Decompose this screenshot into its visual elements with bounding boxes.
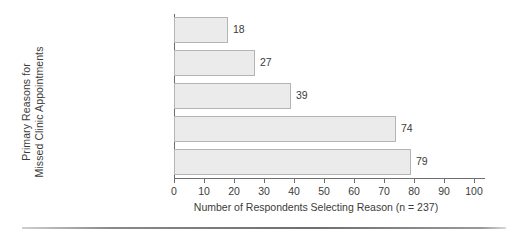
x-axis-tick	[384, 178, 385, 183]
x-axis-tick	[354, 178, 355, 183]
bar-series: Dissatisfied With Previous Care 18 Care …	[174, 14, 485, 178]
bar	[174, 17, 228, 43]
plot-area: Dissatisfied With Previous Care 18 Care …	[174, 14, 485, 179]
x-axis-tick	[234, 178, 235, 183]
x-axis-tick-label: 10	[189, 185, 219, 197]
bar-value-label: 74	[401, 122, 413, 134]
x-axis-tick	[204, 178, 205, 183]
x-axis-title: Number of Respondents Selecting Reason (…	[0, 201, 528, 213]
y-axis-title-line-1: Primary Reasons for	[20, 63, 33, 161]
x-axis-tick-label: 30	[249, 185, 279, 197]
x-axis-tick-label: 100	[459, 185, 489, 197]
x-axis-tick	[174, 178, 175, 183]
bar-value-label: 79	[416, 155, 428, 167]
bar	[174, 50, 255, 76]
bar	[174, 83, 291, 109]
x-axis-tick	[414, 178, 415, 183]
bar-chart-figure: Primary Reasons for Missed Clinic Appoin…	[0, 0, 528, 236]
x-axis-tick	[324, 178, 325, 183]
y-axis-title-line-2: Missed Clinic Appointments	[33, 47, 46, 178]
x-axis-tick-label: 0	[159, 185, 189, 197]
x-axis-tick-label: 80	[399, 185, 429, 197]
x-axis-tick-label: 50	[309, 185, 339, 197]
y-axis-title: Primary Reasons for Missed Clinic Appoin…	[16, 17, 50, 207]
x-axis-tick	[474, 178, 475, 183]
x-axis-tick-label: 90	[429, 185, 459, 197]
x-axis-tick	[294, 178, 295, 183]
x-axis-line	[174, 178, 485, 179]
x-axis-tick-label: 20	[219, 185, 249, 197]
x-axis-tick	[444, 178, 445, 183]
x-axis-tick-label: 60	[339, 185, 369, 197]
bar-value-label: 18	[233, 23, 245, 35]
x-axis-tick-label: 70	[369, 185, 399, 197]
x-axis-tick-label: 40	[279, 185, 309, 197]
bar-value-label: 27	[260, 56, 272, 68]
x-axis-tick	[264, 178, 265, 183]
bar-value-label: 39	[296, 89, 308, 101]
bar	[174, 149, 411, 175]
x-axis-title-text: Number of Respondents Selecting Reason (…	[90, 201, 438, 213]
footer-divider	[22, 227, 506, 229]
bar	[174, 116, 396, 142]
